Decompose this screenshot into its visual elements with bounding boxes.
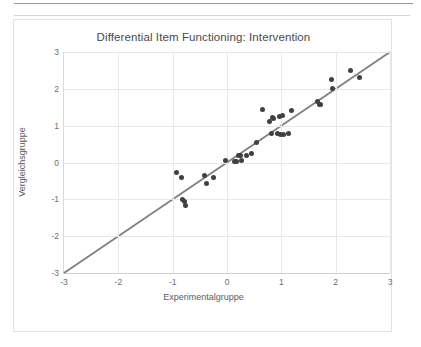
y-axis-tick-label: 0 [54,158,59,168]
y-axis-tick-label: 3 [54,47,59,57]
scatter-point [260,107,265,112]
y-axis-tick-label: -3 [51,268,59,278]
x-axis-tick-label: 2 [333,277,338,287]
scatter-point [174,170,179,175]
scatter-point [239,158,244,163]
x-axis-tick-label: 3 [388,277,393,287]
gridline-vertical [173,52,174,273]
scatter-point [249,151,254,156]
gridline-vertical [227,52,228,273]
plot-area: 3210-1-2-3-3-2-10123 [63,52,390,274]
scatter-point [269,131,274,136]
gridline-vertical [336,52,337,273]
y-axis-tick-label: 1 [54,121,59,131]
scatter-point [289,108,294,113]
x-axis-tick-label: 1 [279,277,284,287]
y-axis-tick-label: -1 [51,194,59,204]
x-axis-tick-label: -1 [169,277,177,287]
chart-container: Differential Item Functioning: Intervent… [13,19,392,332]
y-axis-tick-label: 2 [54,84,59,94]
x-axis-tick-label: -2 [115,277,123,287]
top-divider-light [14,15,410,16]
scatter-point [234,159,239,164]
gridline-vertical [118,52,119,273]
chart-title: Differential Item Functioning: Intervent… [14,31,393,43]
y-axis-title: Vergleichsgruppe [17,127,27,197]
gridline-vertical [281,52,282,273]
y-axis-tick-label: -2 [51,231,59,241]
scatter-point [244,153,249,158]
x-axis-title: Experimentalgruppe [14,292,393,302]
top-divider-dark [14,3,413,4]
scatter-point [281,132,286,137]
gridline-vertical [390,52,391,273]
x-axis-tick-label: 0 [225,277,230,287]
x-axis-tick-label: -3 [60,277,68,287]
scatter-point [211,175,216,180]
